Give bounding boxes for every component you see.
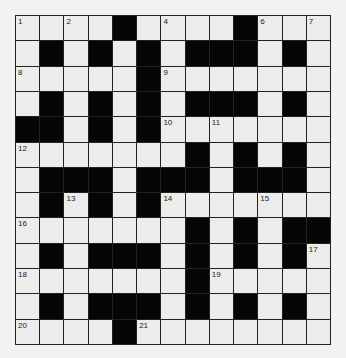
grid-cell[interactable]	[40, 16, 63, 40]
grid-cell[interactable]	[186, 117, 209, 141]
grid-cell[interactable]: 8	[16, 67, 39, 91]
grid-cell[interactable]	[16, 168, 39, 192]
grid-cell[interactable]	[89, 67, 112, 91]
grid-cell[interactable]: 12	[16, 143, 39, 167]
grid-cell[interactable]	[40, 269, 63, 293]
grid-cell[interactable]	[210, 218, 233, 242]
grid-cell[interactable]	[258, 244, 281, 268]
grid-cell[interactable]	[186, 193, 209, 217]
grid-cell[interactable]	[113, 92, 136, 116]
grid-cell[interactable]	[137, 269, 160, 293]
grid-cell[interactable]: 15	[258, 193, 281, 217]
grid-cell[interactable]	[64, 67, 87, 91]
grid-cell[interactable]	[40, 218, 63, 242]
grid-cell[interactable]	[161, 143, 184, 167]
grid-cell[interactable]	[234, 193, 257, 217]
grid-cell[interactable]	[210, 244, 233, 268]
grid-cell[interactable]	[64, 117, 87, 141]
grid-cell[interactable]	[258, 218, 281, 242]
grid-cell[interactable]	[113, 193, 136, 217]
grid-cell[interactable]	[113, 218, 136, 242]
grid-cell[interactable]	[210, 320, 233, 344]
grid-cell[interactable]	[307, 269, 330, 293]
grid-cell[interactable]	[210, 16, 233, 40]
grid-cell[interactable]: 6	[258, 16, 281, 40]
grid-cell[interactable]	[113, 269, 136, 293]
grid-cell[interactable]	[113, 168, 136, 192]
grid-cell[interactable]	[307, 168, 330, 192]
grid-cell[interactable]	[307, 67, 330, 91]
grid-cell[interactable]	[210, 168, 233, 192]
grid-cell[interactable]	[89, 320, 112, 344]
grid-cell[interactable]: 9	[161, 67, 184, 91]
grid-cell[interactable]	[40, 67, 63, 91]
grid-cell[interactable]	[234, 117, 257, 141]
grid-cell[interactable]	[283, 269, 306, 293]
grid-cell[interactable]: 18	[16, 269, 39, 293]
grid-cell[interactable]	[307, 92, 330, 116]
grid-cell[interactable]	[113, 41, 136, 65]
grid-cell[interactable]	[307, 193, 330, 217]
grid-cell[interactable]	[16, 244, 39, 268]
grid-cell[interactable]	[161, 294, 184, 318]
grid-cell[interactable]	[113, 117, 136, 141]
grid-cell[interactable]	[64, 218, 87, 242]
grid-cell[interactable]	[283, 67, 306, 91]
grid-cell[interactable]	[307, 41, 330, 65]
grid-cell[interactable]	[137, 16, 160, 40]
grid-cell[interactable]	[64, 92, 87, 116]
grid-cell[interactable]	[161, 41, 184, 65]
grid-cell[interactable]	[89, 269, 112, 293]
grid-cell[interactable]	[258, 92, 281, 116]
grid-cell[interactable]	[234, 269, 257, 293]
grid-cell[interactable]	[161, 320, 184, 344]
grid-cell[interactable]	[186, 16, 209, 40]
grid-cell[interactable]	[186, 67, 209, 91]
grid-cell[interactable]: 20	[16, 320, 39, 344]
grid-cell[interactable]	[89, 218, 112, 242]
grid-cell[interactable]	[64, 294, 87, 318]
grid-cell[interactable]	[89, 16, 112, 40]
grid-cell[interactable]: 16	[16, 218, 39, 242]
grid-cell[interactable]: 11	[210, 117, 233, 141]
grid-cell[interactable]	[64, 269, 87, 293]
grid-cell[interactable]	[186, 320, 209, 344]
grid-cell[interactable]	[16, 193, 39, 217]
grid-cell[interactable]	[210, 294, 233, 318]
grid-cell[interactable]	[137, 218, 160, 242]
grid-cell[interactable]	[258, 117, 281, 141]
grid-cell[interactable]	[210, 193, 233, 217]
grid-cell[interactable]	[161, 244, 184, 268]
grid-cell[interactable]	[64, 244, 87, 268]
grid-cell[interactable]	[89, 143, 112, 167]
grid-cell[interactable]	[161, 92, 184, 116]
grid-cell[interactable]	[258, 41, 281, 65]
grid-cell[interactable]	[258, 143, 281, 167]
grid-cell[interactable]	[16, 41, 39, 65]
grid-cell[interactable]: 13	[64, 193, 87, 217]
grid-cell[interactable]	[16, 294, 39, 318]
grid-cell[interactable]	[283, 193, 306, 217]
grid-cell[interactable]	[64, 41, 87, 65]
grid-cell[interactable]: 7	[307, 16, 330, 40]
grid-cell[interactable]	[64, 143, 87, 167]
grid-cell[interactable]: 17	[307, 244, 330, 268]
grid-cell[interactable]	[161, 269, 184, 293]
grid-cell[interactable]: 1	[16, 16, 39, 40]
grid-cell[interactable]	[283, 320, 306, 344]
grid-cell[interactable]	[16, 92, 39, 116]
grid-cell[interactable]: 4	[161, 16, 184, 40]
grid-cell[interactable]	[307, 117, 330, 141]
grid-cell[interactable]	[210, 67, 233, 91]
grid-cell[interactable]: 21	[137, 320, 160, 344]
grid-cell[interactable]	[40, 143, 63, 167]
grid-cell[interactable]	[283, 16, 306, 40]
grid-cell[interactable]: 2	[64, 16, 87, 40]
grid-cell[interactable]: 19	[210, 269, 233, 293]
grid-cell[interactable]	[307, 143, 330, 167]
grid-cell[interactable]	[64, 320, 87, 344]
grid-cell[interactable]	[258, 67, 281, 91]
grid-cell[interactable]	[258, 294, 281, 318]
grid-cell[interactable]	[137, 143, 160, 167]
grid-cell[interactable]	[40, 320, 63, 344]
